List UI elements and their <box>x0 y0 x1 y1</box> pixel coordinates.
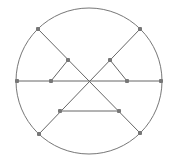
edges-group <box>17 29 161 134</box>
node-E <box>15 79 19 83</box>
node-F <box>49 79 53 83</box>
node-G <box>125 79 129 83</box>
diagram-canvas <box>0 0 171 162</box>
node-B <box>138 27 142 31</box>
node-J <box>117 109 121 113</box>
node-D <box>108 58 112 62</box>
node-I <box>58 109 62 113</box>
node-L <box>138 131 142 135</box>
node-K <box>37 132 41 136</box>
node-H <box>159 79 163 83</box>
edge-D-G <box>110 60 127 81</box>
edge-C-F <box>51 60 68 81</box>
node-A <box>36 27 40 31</box>
node-C <box>66 58 70 62</box>
